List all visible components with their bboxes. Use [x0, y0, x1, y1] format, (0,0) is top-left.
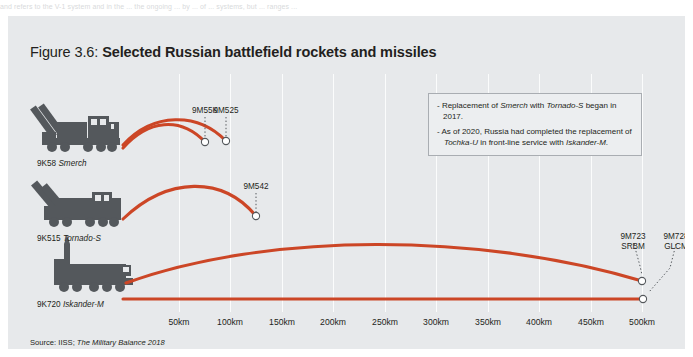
system-iskander-code: 9K720: [37, 300, 61, 309]
gridline-50km: [179, 74, 180, 312]
figure-screenshot: and refers to the V-1 system and in the …: [0, 0, 693, 357]
note1-mid: with: [528, 101, 547, 110]
gridline-500km: [642, 74, 643, 312]
note3-i1: Tochka-U: [444, 138, 478, 147]
note-line-2: - As of 2020, Russia had completed the r…: [437, 126, 633, 137]
label-9M728-name: 9M728: [663, 232, 685, 241]
label-9M728-type: GLCM: [664, 242, 685, 251]
note1-prefix: - Replacement of: [437, 101, 500, 110]
note3-suffix: .: [606, 138, 608, 147]
system-smerch-name: Smerch: [58, 159, 86, 168]
gridline-250km: [385, 74, 386, 312]
system-smerch-code: 9K58: [37, 159, 56, 168]
x-tick-350km: 350km: [475, 317, 501, 327]
source-publication: The Military Balance 2018: [77, 338, 165, 347]
note3-i2: Iskander-M: [566, 138, 606, 147]
note1-i1: Smerch: [500, 101, 528, 110]
note1-i2: Tornado-S: [546, 101, 583, 110]
x-tick-400km: 400km: [526, 317, 552, 327]
figure-title-text: Selected Russian battlefield rockets and…: [102, 44, 436, 60]
x-tick-150km: 150km: [269, 317, 295, 327]
x-tick-300km: 300km: [423, 317, 449, 327]
x-tick-100km: 100km: [217, 317, 243, 327]
x-tick-250km: 250km: [372, 317, 398, 327]
gridline-200km: [333, 74, 334, 312]
x-tick-200km: 200km: [320, 317, 346, 327]
figure-number: Figure 3.6:: [30, 44, 98, 60]
note-line-1: - Replacement of Smerch with Tornado-S b…: [437, 100, 633, 122]
note-callout-box: - Replacement of Smerch with Tornado-S b…: [428, 93, 642, 156]
label-9M723-name: 9M723: [620, 232, 645, 241]
x-tick-450km: 450km: [578, 317, 604, 327]
note3-mid: in front-line service with: [478, 138, 566, 147]
label-9M723-SRBM: 9M723 SRBM: [620, 232, 645, 252]
page-running-text: and refers to the V-1 system and in the …: [0, 0, 693, 13]
system-tornado-code: 9K515: [37, 234, 61, 243]
system-iskander-name: Iskander-M: [63, 300, 104, 309]
source-line: Source: IISS; The Military Balance 2018: [30, 338, 165, 347]
label-9M728-GLCM: 9M728 GLCM: [663, 232, 685, 252]
note2-prefix: - As of 2020, Russia had completed the r…: [437, 127, 632, 136]
label-9M525: 9M525: [213, 106, 238, 116]
system-label-smerch: 9K58 Smerch: [37, 159, 87, 168]
system-tornado-name: Tornado-S: [63, 234, 101, 243]
label-9M542: 9M542: [243, 182, 268, 192]
x-tick-500km: 500km: [629, 317, 655, 327]
figure-title: Figure 3.6: Selected Russian battlefield…: [30, 44, 437, 60]
figure-panel: Figure 3.6: Selected Russian battlefield…: [8, 16, 685, 349]
source-prefix: Source: IISS;: [30, 338, 77, 347]
system-label-iskander: 9K720 Iskander-M: [37, 300, 104, 309]
label-9M723-type: SRBM: [621, 242, 645, 251]
system-label-tornado: 9K515 Tornado-S: [37, 234, 101, 243]
x-tick-50km: 50km: [168, 317, 189, 327]
gridline-150km: [282, 74, 283, 312]
note-line-3: Tochka-U in front-line service with Iska…: [437, 137, 633, 148]
